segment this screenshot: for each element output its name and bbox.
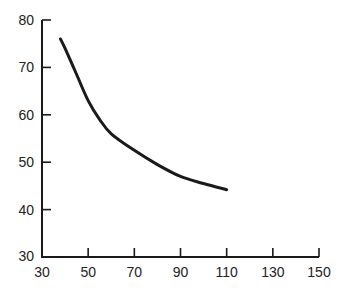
y-tick-label: 70	[18, 59, 34, 75]
y-tick-label: 60	[18, 107, 34, 123]
y-tick-label: 30	[18, 248, 34, 264]
chart-axes	[41, 20, 319, 257]
y-tick-label: 80	[18, 12, 34, 28]
x-tick-label: 50	[80, 264, 96, 280]
x-tick-label: 90	[173, 264, 189, 280]
x-tick-label: 130	[261, 264, 285, 280]
x-tick-label: 30	[34, 264, 50, 280]
x-axis-ticks: 30507090110130150	[34, 248, 331, 280]
y-tick-label: 50	[18, 154, 34, 170]
data-curve	[60, 39, 226, 190]
x-tick-label: 150	[307, 264, 331, 280]
x-tick-label: 110	[216, 264, 239, 280]
y-tick-label: 40	[18, 202, 34, 218]
x-tick-label: 70	[127, 264, 143, 280]
y-axis-ticks: 304050607080	[18, 12, 51, 264]
line-chart: 30507090110130150 304050607080	[0, 0, 346, 293]
